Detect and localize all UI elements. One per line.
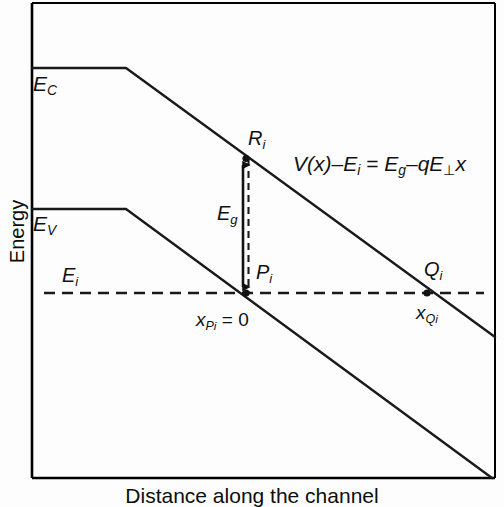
equation-rhs-x: x	[455, 152, 466, 175]
equation-lhs-arg: (x)	[307, 152, 332, 175]
label-eg-base: E	[217, 202, 230, 224]
label-x-pi-sub: P	[206, 319, 214, 333]
label-qi-sub: i	[440, 268, 443, 283]
label-qi: Qi	[424, 258, 443, 283]
diagram-canvas	[0, 0, 504, 507]
label-pi-sub: i	[269, 271, 272, 286]
label-x-qi-sub: Q	[426, 312, 436, 326]
label-ev: EV	[33, 212, 56, 238]
label-ev-base: E	[33, 212, 47, 235]
label-qi-base: Q	[424, 258, 440, 280]
label-pi-base: P	[256, 261, 269, 283]
label-pi: Pi	[256, 261, 272, 286]
equation-minus-2: –	[406, 152, 418, 175]
label-ei-sub: i	[75, 274, 78, 289]
label-x-qi-base: x	[416, 302, 426, 323]
label-eg-sub: g	[230, 212, 237, 227]
equation-rhs-e: E	[429, 152, 443, 175]
equation-rhs-e-sub-perp: ⊥	[443, 162, 455, 178]
equation-rhs-eg-sub: g	[398, 162, 406, 178]
equation-annotation: V(x)–Ei = Eg–qE⊥x	[293, 152, 466, 178]
point-qi	[423, 289, 430, 296]
label-ei-base: E	[62, 264, 75, 286]
label-ri: Ri	[248, 127, 265, 152]
point-pi	[242, 289, 249, 296]
label-ec-base: E	[33, 72, 47, 95]
y-axis-label: Energy	[6, 194, 29, 270]
equation-equals: =	[360, 152, 384, 175]
label-ev-sub: V	[47, 222, 56, 238]
point-ri	[242, 155, 249, 162]
valence-band-line	[32, 209, 492, 478]
energy-band-diagram-figure: EC EV Ei Ri Pi Qi Eg xPi = 0 xQi V(x)–Ei…	[0, 0, 504, 507]
plot-frame	[32, 3, 495, 478]
x-axis-label: Distance along the channel	[0, 484, 504, 507]
label-ri-sub: i	[262, 137, 265, 152]
label-ri-base: R	[248, 127, 262, 149]
label-x-pi-tail: = 0	[216, 309, 248, 330]
label-x-pi: xPi = 0	[196, 309, 249, 333]
label-x-pi-base: x	[196, 309, 206, 330]
equation-rhs-eg: E	[384, 152, 398, 175]
label-eg: Eg	[217, 202, 238, 227]
label-ec-sub: C	[47, 82, 57, 98]
label-ec: EC	[33, 72, 57, 98]
equation-minus-1: –	[332, 152, 344, 175]
equation-lhs-fn: V	[293, 152, 307, 175]
label-x-qi: xQi	[416, 302, 438, 326]
conduction-band-line	[32, 68, 495, 337]
equation-lhs-e: E	[343, 152, 357, 175]
label-x-qi-sub2: i	[435, 312, 438, 325]
label-ei: Ei	[62, 264, 78, 289]
equation-rhs-q: q	[418, 152, 430, 175]
